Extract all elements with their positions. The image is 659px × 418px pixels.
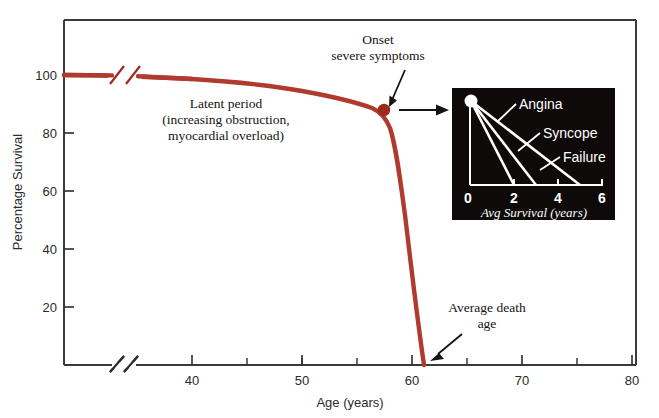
onset-line-2: severe symptoms <box>331 48 424 63</box>
inset-x-tick-0: 0 <box>464 190 472 206</box>
x-axis-title: Age (years) <box>316 395 383 410</box>
onset-arrow-icon <box>389 70 405 107</box>
figure-root: 100 80 60 40 20 Percentage Survival 40 5… <box>0 0 659 418</box>
inset-x-axis-title: Avg Survival (years) <box>480 205 587 220</box>
annotation-onset-severe-symptoms: Onset severe symptoms <box>331 32 424 107</box>
onset-line-1: Onset <box>362 32 394 47</box>
y-axis-title: Percentage Survival <box>10 134 25 250</box>
inset-origin-dot <box>465 95 478 108</box>
survival-chart: 100 80 60 40 20 Percentage Survival 40 5… <box>0 0 659 418</box>
x-tick-label-60: 60 <box>405 373 419 388</box>
y-tick-label-20: 20 <box>43 300 57 315</box>
y-tick-label-40: 40 <box>43 242 57 257</box>
inset-panel: 0 2 4 6 Angina Syncope Failure Avg Survi… <box>452 88 615 220</box>
annotation-average-death-age: Average death age <box>430 300 526 361</box>
death-age-arrow-icon <box>430 334 462 361</box>
latent-period-line-2: (increasing obstruction, <box>162 112 289 127</box>
y-tick-label-100: 100 <box>35 68 57 83</box>
y-tick-label-80: 80 <box>43 126 57 141</box>
curve-break-icon <box>64 66 192 84</box>
x-axis-break-icon <box>110 356 138 372</box>
x-tick-label-80: 80 <box>625 373 639 388</box>
x-axis: 40 50 60 70 80 Age (years) <box>110 355 639 410</box>
inset-x-tick-4: 4 <box>554 190 562 206</box>
death-age-line-1: Average death <box>448 300 526 315</box>
x-tick-label-40: 40 <box>185 373 199 388</box>
y-tick-label-60: 60 <box>43 184 57 199</box>
annotation-latent-period: Latent period (increasing obstruction, m… <box>162 96 289 143</box>
inset-label-failure: Failure <box>563 149 606 165</box>
x-tick-label-50: 50 <box>295 373 309 388</box>
x-tick-label-70: 70 <box>515 373 529 388</box>
inset-x-tick-6: 6 <box>598 190 606 206</box>
inset-label-syncope: Syncope <box>543 125 598 141</box>
inset-pointer-arrow-icon <box>399 105 449 116</box>
latent-period-line-1: Latent period <box>190 96 263 111</box>
inset-label-angina: Angina <box>519 96 563 112</box>
onset-marker-dot <box>378 104 390 116</box>
death-age-line-2: age <box>478 316 497 331</box>
inset-x-tick-2: 2 <box>510 190 518 206</box>
latent-period-line-3: myocardial overload) <box>168 128 284 143</box>
